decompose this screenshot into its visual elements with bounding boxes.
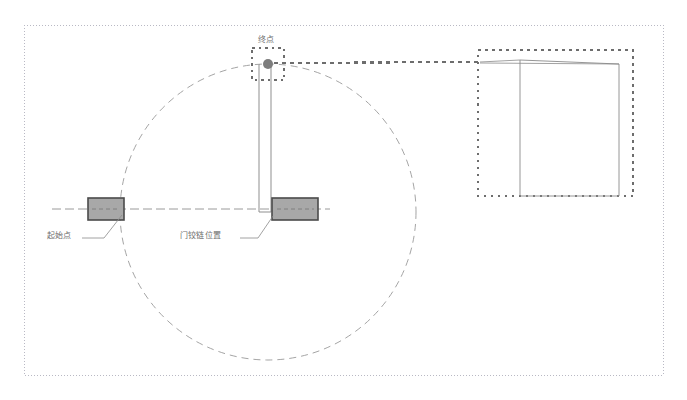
label-end-point: 终点 [258,36,274,44]
label-start-point: 起始点 [47,232,72,240]
detail-callout-box [478,50,633,196]
label-hinge-position: 门铰链位置 [180,232,221,240]
leader-line-hinge-position [240,216,273,238]
start-point-panel [88,198,124,220]
detail-callout-connector [274,62,478,63]
end-point-marker-dot [263,59,273,69]
diagram-canvas: 终点 起始点 门铰链位置 [0,0,687,400]
hinge-position-panel [272,198,318,220]
door-leaf-open [259,64,271,212]
detail-door-panel [520,60,619,196]
diagram-vector-layer [0,0,687,400]
